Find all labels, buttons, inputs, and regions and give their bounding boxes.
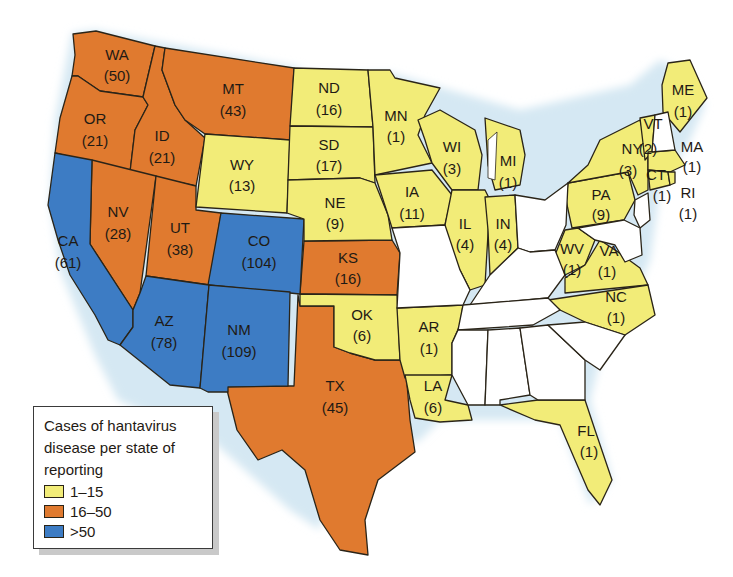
label-CO-cases: (104) <box>241 254 276 271</box>
label-KS-cases: (16) <box>335 270 362 287</box>
legend-label-high: >50 <box>70 523 95 540</box>
label-IL-cases: (4) <box>456 236 474 253</box>
label-AZ-abbr: AZ <box>154 312 173 329</box>
legend-label-mid: 16–50 <box>70 503 112 520</box>
label-TX-abbr: TX <box>325 377 344 394</box>
label-CT-cases: (1) <box>653 187 671 204</box>
label-NC-abbr: NC <box>605 288 627 305</box>
label-AR-abbr: AR <box>419 318 440 335</box>
label-TX-cases: (45) <box>322 399 349 416</box>
label-NY-cases: (3) <box>619 162 637 179</box>
label-CO-abbr: CO <box>248 232 271 249</box>
label-VA-abbr: VA <box>600 242 619 259</box>
lake-michigan <box>488 132 497 180</box>
label-CA-cases: (61) <box>55 254 82 271</box>
label-MT-cases: (43) <box>220 102 247 119</box>
label-UT-cases: (38) <box>167 241 194 258</box>
label-LA-abbr: LA <box>424 377 442 394</box>
label-OK-abbr: OK <box>351 306 373 323</box>
label-MN-cases: (1) <box>387 128 405 145</box>
label-WV-abbr: WV <box>560 240 584 257</box>
label-NM-cases: (109) <box>221 343 256 360</box>
label-IN-cases: (4) <box>494 236 512 253</box>
label-RI-abbr: RI <box>681 184 696 201</box>
label-MI-cases: (1) <box>499 174 517 191</box>
label-NV-abbr: NV <box>108 203 129 220</box>
label-MT-abbr: MT <box>222 80 244 97</box>
label-ME-cases: (1) <box>674 103 692 120</box>
legend-item-high: >50 <box>44 521 202 541</box>
label-VT-abbr: VT <box>643 115 662 132</box>
legend-label-low: 1–15 <box>70 483 103 500</box>
label-NV-cases: (28) <box>105 225 132 242</box>
label-CT-abbr: CT <box>646 166 666 183</box>
swatch-mid-icon <box>44 505 64 518</box>
label-WA-cases: (50) <box>104 67 131 84</box>
map-legend: Cases of hantavirus disease per state of… <box>33 406 213 549</box>
label-ME-abbr: ME <box>672 81 695 98</box>
label-VT-cases: (2) <box>639 140 657 157</box>
label-NM-abbr: NM <box>227 321 250 338</box>
label-WA-abbr: WA <box>105 46 129 63</box>
label-ID-abbr: ID <box>155 127 170 144</box>
label-WY-abbr: WY <box>230 156 254 173</box>
legend-title-line-1: Cases of hantavirus <box>44 415 202 437</box>
state-SD[interactable] <box>288 126 375 183</box>
label-WY-cases: (13) <box>229 177 256 194</box>
label-RI-cases: (1) <box>679 205 697 222</box>
label-ND-cases: (16) <box>316 101 343 118</box>
label-PA-cases: (9) <box>592 206 610 223</box>
state-RI[interactable] <box>668 172 675 185</box>
label-MN-abbr: MN <box>384 107 407 124</box>
label-IA-cases: (11) <box>399 205 425 222</box>
label-WV-cases: (1) <box>563 261 581 278</box>
label-FL-abbr: FL <box>577 422 595 439</box>
label-ID-cases: (21) <box>149 149 176 166</box>
legend-title-line-3: reporting <box>44 459 202 481</box>
legend-item-low: 1–15 <box>44 481 202 501</box>
label-NE-cases: (9) <box>326 215 344 232</box>
label-WI-cases: (3) <box>443 160 461 177</box>
label-AZ-cases: (78) <box>151 334 178 351</box>
state-ND[interactable] <box>290 68 373 127</box>
label-UT-abbr: UT <box>170 219 190 236</box>
label-CA-abbr: CA <box>58 232 79 249</box>
label-KS-abbr: KS <box>338 249 358 266</box>
label-IA-abbr: IA <box>405 183 419 200</box>
label-MA-abbr: MA <box>681 138 704 155</box>
label-OR-cases: (21) <box>82 132 109 149</box>
label-SD-abbr: SD <box>319 136 340 153</box>
legend-item-mid: 16–50 <box>44 501 202 521</box>
label-NC-cases: (1) <box>607 309 625 326</box>
label-IN-abbr: IN <box>496 215 511 232</box>
swatch-low-icon <box>44 485 64 498</box>
state-NM[interactable] <box>200 285 290 392</box>
label-NE-abbr: NE <box>325 194 346 211</box>
state-WY[interactable] <box>196 134 290 213</box>
label-AR-cases: (1) <box>420 340 438 357</box>
legend-title-line-2: disease per state of <box>44 437 202 459</box>
label-IL-abbr: IL <box>459 215 472 232</box>
label-OK-cases: (6) <box>353 327 371 344</box>
label-FL-cases: (1) <box>580 443 598 460</box>
swatch-high-icon <box>44 525 64 538</box>
label-VA-cases: (1) <box>598 263 616 280</box>
label-WI-abbr: WI <box>443 138 461 155</box>
label-MA-cases: (1) <box>683 158 701 175</box>
label-LA-cases: (6) <box>424 399 442 416</box>
label-SD-cases: (17) <box>316 157 343 174</box>
label-MI-abbr: MI <box>500 152 517 169</box>
label-ND-abbr: ND <box>318 79 340 96</box>
label-PA-abbr: PA <box>592 186 611 203</box>
label-OR-abbr: OR <box>84 110 107 127</box>
